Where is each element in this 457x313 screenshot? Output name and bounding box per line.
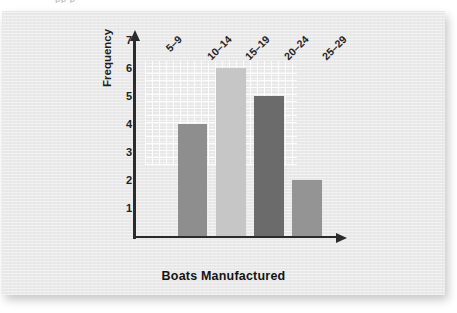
y-tick-label: 7 [116, 34, 132, 46]
bar [292, 180, 322, 236]
bar-series [133, 40, 336, 236]
y-tick-label: 2 [116, 174, 132, 186]
y-axis-title: Frequency [101, 29, 113, 87]
x-axis-arrow-icon [336, 233, 347, 243]
y-tick-label: 3 [116, 146, 132, 158]
y-tick-label: 4 [116, 118, 132, 130]
y-tick-label: 6 [116, 62, 132, 74]
y-tick-label: 5 [116, 90, 132, 102]
plot-area: 1234567 5–910–1415–1920–2425–29 [133, 30, 338, 238]
x-axis-title: Boats Manufactured [2, 269, 445, 283]
bar [254, 96, 284, 236]
figure-card: 1234567 5–910–1415–1920–2425–29 Frequenc… [2, 11, 445, 295]
x-axis-line [133, 236, 336, 239]
bar [216, 68, 246, 236]
y-tick-label: 1 [116, 202, 132, 214]
page-background: рр р 1234567 5–910–1415–1920–2425–29 Fre… [0, 0, 457, 313]
cropped-heading-fragment: рр р [55, 0, 175, 3]
bar [178, 124, 208, 236]
bar-chart: 1234567 5–910–1415–1920–2425–29 Frequenc… [2, 11, 445, 295]
